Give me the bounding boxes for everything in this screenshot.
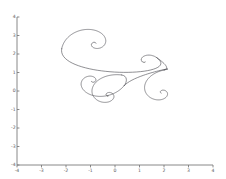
x-tick-label: -1: [88, 168, 93, 173]
plot-figure: -4-3-2-101234 -4-3-2-101234: [0, 0, 226, 179]
spiral-arm-right-spiral: [145, 70, 168, 100]
y-tick-label: -3: [11, 144, 16, 149]
spiral-connector-2: [124, 69, 168, 86]
spiral-connector-0: [61, 49, 161, 73]
y-axis-ticks: -4-3-2-101234: [11, 14, 19, 167]
spiral-curve-group: [61, 29, 168, 102]
spiral-plot: -4-3-2-101234 -4-3-2-101234: [0, 0, 226, 179]
x-tick-label: 1: [138, 168, 141, 173]
x-tick-label: 2: [163, 168, 166, 173]
y-tick-label: 2: [13, 51, 16, 56]
x-tick-label: -4: [15, 168, 20, 173]
y-tick-label: 3: [13, 33, 16, 38]
spiral-arm-lower-center-spiral: [92, 75, 122, 103]
spiral-arm-mid-left-spiral: [81, 76, 124, 96]
x-tick-label: -3: [39, 168, 44, 173]
y-tick-label: 0: [13, 88, 16, 93]
x-tick-label: 3: [187, 168, 190, 173]
y-tick-label: 1: [13, 70, 16, 75]
spiral-arm-upper-left-spiral: [62, 29, 106, 48]
x-tick-label: 4: [212, 168, 215, 173]
y-tick-label: -1: [11, 107, 16, 112]
x-tick-label: -2: [64, 168, 69, 173]
spiral-connector-1: [157, 58, 167, 70]
axes-spines: [17, 17, 213, 165]
x-axis-ticks: -4-3-2-101234: [15, 165, 215, 173]
x-tick-label: 0: [114, 168, 117, 173]
spiral-arm-small-right-loop: [141, 55, 157, 62]
y-tick-label: -4: [11, 162, 16, 167]
y-tick-label: 4: [13, 14, 16, 19]
y-tick-label: -2: [11, 125, 16, 130]
